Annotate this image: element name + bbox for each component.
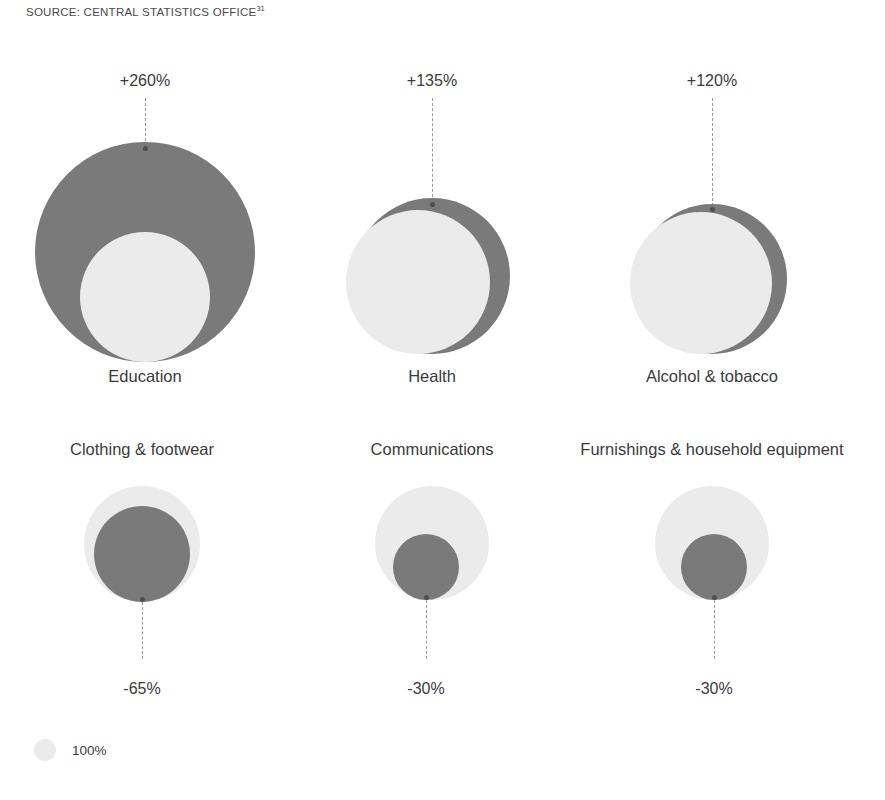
value-label-health: +135% bbox=[352, 72, 512, 90]
baseline-circle-health bbox=[346, 210, 490, 354]
leader-line-furnishings-household-equipment bbox=[714, 600, 715, 659]
legend-label-baseline: 100% bbox=[72, 743, 107, 758]
category-label-education: Education bbox=[45, 367, 245, 386]
legend: 100% bbox=[34, 739, 107, 761]
category-label-communications: Communications bbox=[352, 440, 512, 459]
value-label-clothing-footwear: -65% bbox=[62, 680, 222, 698]
marker-dot-alcohol-tobacco bbox=[710, 207, 715, 212]
baseline-circle-alcohol-tobacco bbox=[630, 212, 772, 354]
category-label-clothing-footwear: Clothing & footwear bbox=[42, 440, 242, 459]
inner-circle-furnishings-household-equipment bbox=[681, 534, 747, 600]
leader-line-health bbox=[432, 98, 433, 202]
marker-dot-education bbox=[143, 146, 148, 151]
value-label-communications: -30% bbox=[346, 680, 506, 698]
inner-circle-clothing-footwear bbox=[94, 506, 190, 602]
leader-line-education bbox=[145, 98, 146, 146]
legend-swatch-baseline bbox=[34, 739, 56, 761]
category-label-furnishings-household-equipment: Furnishings & household equipment bbox=[562, 440, 862, 459]
value-label-alcohol-tobacco: +120% bbox=[632, 72, 792, 90]
inner-circle-communications bbox=[393, 534, 459, 600]
value-label-furnishings-household-equipment: -30% bbox=[634, 680, 794, 698]
value-label-education: +260% bbox=[65, 72, 225, 90]
marker-dot-health bbox=[430, 202, 435, 207]
baseline-circle-education bbox=[80, 232, 210, 362]
bubble-chart: +260% Education +135% Health +120% Alcoh… bbox=[0, 0, 885, 800]
leader-line-alcohol-tobacco bbox=[712, 98, 713, 206]
category-label-health: Health bbox=[352, 367, 512, 386]
category-label-alcohol-tobacco: Alcohol & tobacco bbox=[612, 367, 812, 386]
leader-line-communications bbox=[426, 600, 427, 659]
leader-line-clothing-footwear bbox=[142, 602, 143, 659]
